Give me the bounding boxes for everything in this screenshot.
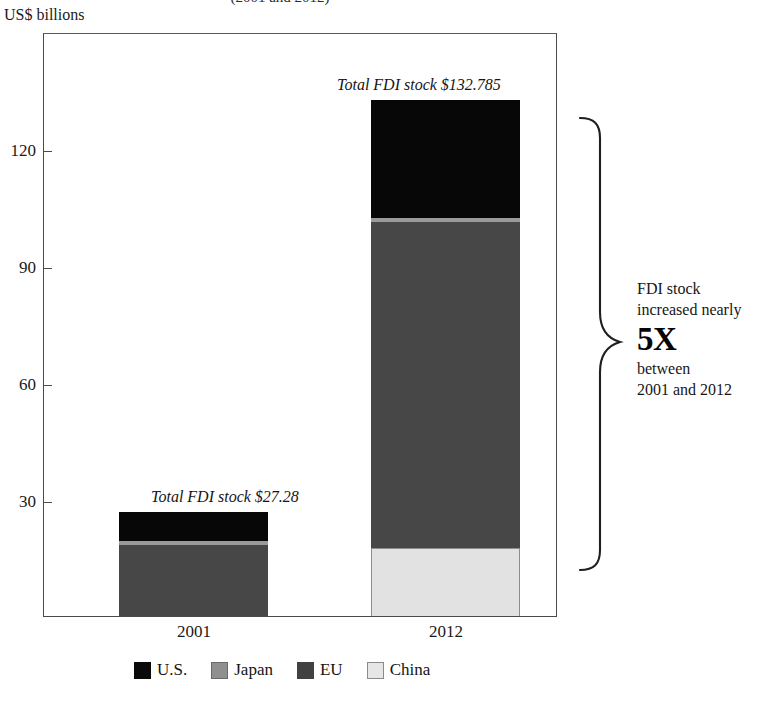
legend-label-china: China [390, 660, 431, 680]
y-tick-label-30: 30 [0, 492, 36, 512]
callout-line-2: increased nearly [637, 299, 767, 320]
bar-segment-2001-eu[interactable] [119, 545, 268, 616]
y-tick-label-60: 60 [0, 375, 36, 395]
legend-swatch-us-icon [134, 662, 151, 679]
y-tick-mark-90 [43, 268, 52, 269]
legend-swatch-china-icon [367, 662, 384, 679]
legend-item-china[interactable]: China [367, 660, 431, 680]
legend-label-japan: Japan [234, 660, 273, 680]
callout-line-5: 2001 and 2012 [637, 379, 767, 400]
bar-segment-2012-china[interactable] [371, 548, 520, 616]
bar-total-label-2001: Total FDI stock $27.28 [151, 488, 299, 506]
bar-segment-2001-us[interactable] [119, 512, 268, 541]
callout-text: FDI stock increased nearly 5X between 20… [637, 278, 767, 400]
stacked-bar-2001[interactable] [119, 512, 268, 616]
legend-item-eu[interactable]: EU [297, 660, 343, 680]
legend-label-us: U.S. [157, 660, 187, 680]
y-tick-label-120: 120 [0, 141, 36, 161]
legend-swatch-eu-icon [297, 662, 314, 679]
legend-item-japan[interactable]: Japan [211, 660, 273, 680]
stacked-bar-2012[interactable] [371, 100, 520, 616]
legend-item-us[interactable]: U.S. [134, 660, 187, 680]
y-tick-mark-30 [43, 502, 52, 503]
callout-brace-icon [578, 116, 634, 576]
bar-segment-2012-us[interactable] [371, 100, 520, 218]
y-axis-unit-label: US$ billions [4, 6, 84, 24]
legend-swatch-japan-icon [211, 662, 228, 679]
x-axis-label-2001: 2001 [144, 622, 244, 642]
legend: U.S. Japan EU China [134, 660, 446, 680]
callout-multiplier: 5X [637, 320, 767, 358]
callout-line-1: FDI stock [637, 278, 767, 299]
legend-label-eu: EU [320, 660, 343, 680]
bar-total-label-2012: Total FDI stock $132.785 [337, 76, 501, 94]
y-tick-mark-60 [43, 385, 52, 386]
y-tick-label-90: 90 [0, 258, 36, 278]
y-tick-mark-120 [43, 151, 52, 152]
bar-segment-2012-eu[interactable] [371, 222, 520, 548]
callout-line-4: between [637, 358, 767, 379]
x-axis-label-2012: 2012 [396, 622, 496, 642]
